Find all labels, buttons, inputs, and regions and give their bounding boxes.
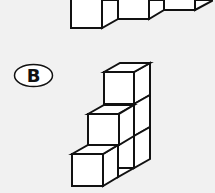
- previous-figure-cubes: [71, 0, 212, 28]
- option-label-b: B: [15, 65, 53, 87]
- option-letter: B: [27, 65, 41, 86]
- figure-b-cubes: [72, 63, 150, 186]
- cube-figure-canvas: B: [0, 0, 215, 193]
